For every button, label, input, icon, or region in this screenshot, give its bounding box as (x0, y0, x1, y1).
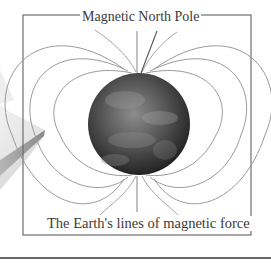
earth-globe (88, 73, 190, 175)
diagram-caption: The Earth's lines of magnetic force (45, 216, 252, 231)
magnetic-north-pole-label: Magnetic North Pole (80, 10, 201, 24)
magnetic-field-diagram: Magnetic North Pole The Earth's lines of… (0, 0, 271, 269)
